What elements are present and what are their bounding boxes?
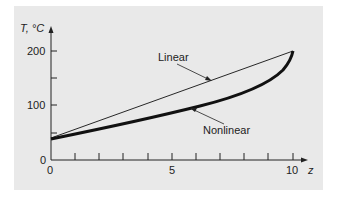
annotation-nonlinear-arrow	[192, 109, 224, 124]
y-ticks	[51, 51, 57, 133]
chart-svg: T, °C 200 100 0 0 5 10 z Linear Nonlinea…	[0, 0, 340, 197]
x-tick-label-10: 10	[286, 164, 298, 176]
x-tick-label-5: 5	[169, 164, 175, 176]
y-tick-label-200: 200	[27, 45, 45, 57]
annotation-linear-arrow	[177, 64, 210, 80]
annotation-linear-arrowhead-icon	[205, 76, 212, 81]
x-tick-label-0: 0	[47, 164, 53, 176]
annotation-nonlinear-arrowhead-icon	[190, 108, 197, 112]
x-axis-label: z	[307, 164, 314, 176]
annotation-linear: Linear	[158, 51, 189, 63]
x-axis-arrow-icon	[301, 158, 308, 163]
y-tick-label-0: 0	[40, 154, 46, 166]
y-axis-arrow-icon	[49, 26, 54, 33]
annotation-nonlinear: Nonlinear	[203, 124, 250, 136]
series-linear	[51, 51, 293, 138]
y-axis-label: T, °C	[20, 22, 44, 34]
y-tick-label-100: 100	[27, 99, 45, 111]
x-ticks	[75, 153, 293, 160]
